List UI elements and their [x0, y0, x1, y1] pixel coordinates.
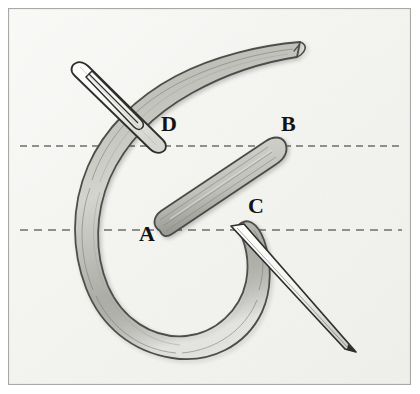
point-label-c: C: [248, 195, 264, 217]
embroidery-diagram: A B C D: [0, 0, 420, 394]
diagram-canvas: [0, 0, 420, 394]
point-label-b: B: [281, 113, 296, 135]
point-label-a: A: [139, 223, 155, 245]
point-label-d: D: [161, 113, 177, 135]
